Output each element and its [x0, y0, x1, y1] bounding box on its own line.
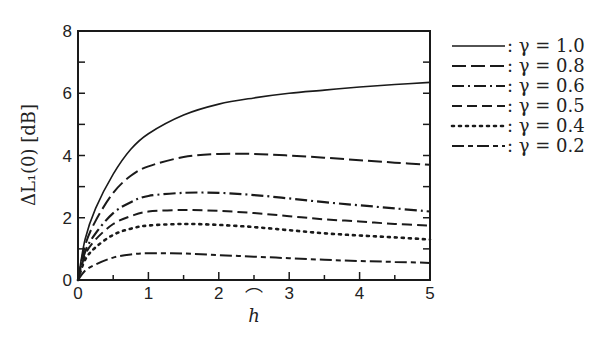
y-tick-label: 6 [63, 84, 72, 103]
series-line [78, 210, 430, 280]
y-tick-label: 8 [63, 22, 72, 41]
plot-frame [78, 31, 430, 280]
legend-item: : γ = 0.4 [452, 115, 585, 136]
legend-label: : γ = 0.5 [507, 95, 585, 116]
legend: : γ = 1.0: γ = 0.8: γ = 0.6: γ = 0.5: γ … [452, 35, 585, 156]
x-tick-label: 2 [214, 284, 223, 303]
x-tick-label: 4 [355, 284, 364, 303]
y-tick-label: 0 [63, 271, 72, 290]
legend-item: : γ = 0.8 [452, 55, 585, 76]
legend-item: : γ = 0.5 [452, 95, 585, 116]
y-tick-label: 2 [63, 209, 72, 228]
x-axis-label: ⌒ h [245, 287, 263, 326]
svg-text:h: h [248, 305, 260, 326]
x-tick-label: 3 [284, 284, 293, 303]
legend-label: : γ = 1.0 [507, 35, 585, 56]
x-tick-label: 1 [144, 284, 153, 303]
y-tick-label: 4 [63, 147, 72, 166]
legend-item: : γ = 0.6 [452, 75, 585, 96]
legend-item: : γ = 1.0 [452, 35, 585, 56]
y-axis-label: ΔL₁(0) [dB] [18, 104, 39, 206]
series-line [78, 82, 430, 280]
plot-area [78, 82, 430, 280]
x-tick-label: 5 [425, 284, 434, 303]
line-chart: 02468012345 : γ = 1.0: γ = 0.8: γ = 0.6:… [0, 0, 609, 346]
series-line [78, 224, 430, 280]
series-line [78, 193, 430, 280]
legend-label: : γ = 0.4 [507, 115, 585, 136]
legend-item: : γ = 0.2 [452, 135, 585, 156]
legend-label: : γ = 0.6 [507, 75, 585, 96]
x-tick-label: 0 [73, 284, 82, 303]
legend-label: : γ = 0.2 [507, 135, 585, 156]
legend-label: : γ = 0.8 [507, 55, 585, 76]
